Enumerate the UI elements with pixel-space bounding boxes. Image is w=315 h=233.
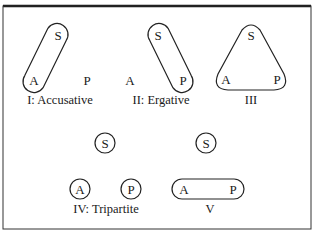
- node-a: A: [29, 73, 39, 88]
- node-p: P: [179, 73, 186, 88]
- node-s: S: [101, 136, 108, 151]
- node-p: P: [83, 73, 90, 88]
- node-s: S: [54, 28, 61, 43]
- node-p: P: [273, 72, 280, 87]
- panel-v: S A P V: [172, 133, 244, 216]
- node-s: S: [202, 136, 209, 151]
- node-a: A: [179, 182, 189, 197]
- node-p: P: [127, 182, 134, 197]
- caption-ergative: II: Ergative: [132, 93, 189, 107]
- caption-accusative: I: Accusative: [27, 93, 93, 107]
- panel-tripartite: S A P IV: Tripartite: [70, 133, 141, 216]
- panel-accusative: S A P I: Accusative: [23, 23, 93, 107]
- caption-iii: III: [245, 93, 258, 107]
- panel-ergative: S A P II: Ergative: [125, 23, 193, 107]
- panel-neutral: S A P III: [216, 25, 285, 107]
- caption-tripartite: IV: Tripartite: [73, 202, 139, 216]
- node-a: A: [221, 72, 231, 87]
- node-a: A: [75, 182, 85, 197]
- node-p: P: [229, 182, 236, 197]
- node-s: S: [154, 28, 161, 43]
- node-a: A: [125, 73, 135, 88]
- node-s: S: [247, 28, 254, 43]
- caption-v: V: [205, 202, 214, 216]
- alignment-diagram: S A P I: Accusative S A P II: Ergative S…: [0, 0, 315, 233]
